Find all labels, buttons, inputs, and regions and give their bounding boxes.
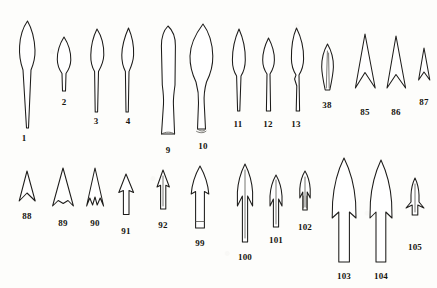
artifact-drawing-4 — [122, 28, 134, 112]
artifact-label-11: 11 — [225, 120, 251, 129]
artifact-drawing-3 — [91, 29, 104, 112]
artifact-label-102: 102 — [292, 223, 318, 232]
artifact-label-2: 2 — [51, 98, 77, 107]
artifact-label-3: 3 — [83, 117, 109, 126]
typology-plate: 1 2 3 4 9 10 11 12 13 38 85 86 87 88 89 … — [0, 0, 437, 288]
artifact-drawing-9 — [161, 26, 175, 134]
artifact-drawing-88 — [19, 171, 35, 201]
artifact-drawing-99 — [191, 166, 209, 228]
artifact-drawing-38 — [322, 44, 334, 90]
artifact-drawing-11 — [232, 29, 245, 111]
artifact-label-105: 105 — [402, 243, 428, 252]
artifact-drawing-104 — [370, 160, 392, 262]
artifact-label-89: 89 — [50, 219, 76, 228]
artifact-drawings — [0, 0, 437, 288]
artifact-drawing-103 — [332, 158, 356, 262]
artifact-drawing-92 — [157, 170, 169, 209]
artifact-drawing-105 — [406, 178, 424, 215]
artifact-drawing-12 — [263, 38, 275, 111]
artifact-label-4: 4 — [115, 117, 141, 126]
artifact-label-103: 103 — [331, 272, 357, 281]
artifact-label-99: 99 — [187, 239, 213, 248]
artifact-label-92: 92 — [150, 221, 176, 230]
artifact-label-100: 100 — [232, 253, 258, 262]
artifact-label-1: 1 — [11, 134, 37, 143]
artifact-drawing-10 — [190, 24, 213, 133]
artifact-drawing-85 — [355, 34, 375, 88]
artifact-label-90: 90 — [82, 219, 108, 228]
artifact-drawing-86 — [387, 36, 406, 88]
artifact-label-86: 86 — [383, 108, 409, 117]
artifact-drawing-1 — [19, 21, 35, 128]
artifact-label-12: 12 — [255, 120, 281, 129]
artifact-label-10: 10 — [190, 142, 216, 151]
artifact-label-88: 88 — [14, 212, 40, 221]
artifact-drawing-100 — [237, 164, 252, 242]
artifact-label-87: 87 — [411, 98, 437, 107]
artifact-drawing-102 — [300, 171, 310, 210]
artifact-label-38: 38 — [314, 101, 340, 110]
artifact-drawing-13 — [291, 28, 303, 111]
artifact-label-104: 104 — [368, 272, 394, 281]
artifact-label-13: 13 — [283, 120, 309, 129]
artifact-drawing-90 — [87, 168, 104, 206]
artifact-drawing-91 — [119, 174, 134, 215]
artifact-label-9: 9 — [155, 146, 181, 155]
artifact-label-101: 101 — [263, 236, 289, 245]
artifact-label-85: 85 — [352, 108, 378, 117]
artifact-drawing-87 — [419, 48, 430, 80]
artifact-drawing-2 — [57, 37, 71, 91]
artifact-drawing-89 — [53, 168, 74, 206]
artifact-label-91: 91 — [113, 227, 139, 236]
artifact-drawing-101 — [270, 175, 282, 227]
